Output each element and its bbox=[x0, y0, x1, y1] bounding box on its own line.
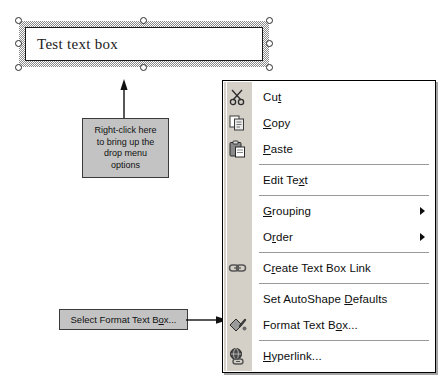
copy-icon bbox=[228, 114, 247, 132]
resize-handle-bottom-right[interactable] bbox=[266, 64, 273, 71]
chain-link-icon bbox=[228, 259, 247, 277]
callout-line-3: drop menu bbox=[104, 148, 147, 158]
menu-item-list: Cut Copy PasteEdit TextGroupingOrder Cre… bbox=[223, 81, 435, 372]
menu-separator bbox=[259, 283, 429, 284]
menu-item-hyperlink[interactable]: Hyperlink... bbox=[223, 343, 435, 369]
resize-handle-bottom-center[interactable] bbox=[140, 64, 147, 71]
callout-right-click: Right-click here to bring up the drop me… bbox=[82, 118, 169, 178]
resize-handle-top-left[interactable] bbox=[15, 17, 22, 24]
menu-item-label-order: Order bbox=[263, 231, 293, 243]
menu-item-copy[interactable]: Copy bbox=[223, 110, 435, 136]
callout-select-format-text-box: Select Format Text Box... bbox=[59, 309, 188, 330]
menu-item-grouping[interactable]: Grouping bbox=[223, 198, 435, 224]
globe-link-icon bbox=[228, 347, 247, 365]
menu-item-label-cut: Cut bbox=[263, 91, 281, 103]
menu-item-create-link[interactable]: Create Text Box Link bbox=[223, 255, 435, 281]
menu-separator bbox=[259, 252, 429, 253]
menu-separator bbox=[259, 195, 429, 196]
callout-select-format-text: Select Format Text Box... bbox=[71, 314, 177, 325]
callout-right-click-text: Right-click here to bring up the drop me… bbox=[91, 125, 159, 171]
resize-handle-middle-left[interactable] bbox=[15, 40, 22, 47]
text-box[interactable]: Test text box bbox=[25, 27, 263, 61]
menu-item-label-edit-text: Edit Text bbox=[263, 174, 308, 186]
menu-item-edit-text[interactable]: Edit Text bbox=[223, 167, 435, 193]
menu-item-order[interactable]: Order bbox=[223, 224, 435, 250]
callout-line-2: to bring up the bbox=[97, 137, 155, 147]
menu-item-paste[interactable]: Paste bbox=[223, 136, 435, 162]
text-box-content: Test text box bbox=[37, 36, 118, 53]
submenu-chevron-right-icon bbox=[420, 233, 425, 241]
annotation-arrow-up-icon bbox=[120, 79, 128, 119]
resize-handle-middle-right[interactable] bbox=[266, 40, 273, 47]
submenu-chevron-right-icon bbox=[420, 207, 425, 215]
menu-item-autoshape[interactable]: Set AutoShape Defaults bbox=[223, 286, 435, 312]
menu-item-label-create-link: Create Text Box Link bbox=[263, 262, 371, 274]
context-menu[interactable]: Cut Copy PasteEdit TextGroupingOrder Cre… bbox=[222, 80, 436, 373]
menu-item-label-grouping: Grouping bbox=[263, 205, 311, 217]
resize-handle-bottom-left[interactable] bbox=[15, 64, 22, 71]
callout-select-format-pre: Select Format Text B bbox=[71, 314, 159, 325]
clipboard-icon bbox=[228, 140, 247, 158]
menu-item-label-format-textbox: Format Text Box... bbox=[263, 319, 358, 331]
resize-handle-top-right[interactable] bbox=[266, 17, 273, 24]
menu-separator bbox=[259, 164, 429, 165]
menu-item-label-paste: Paste bbox=[263, 143, 293, 155]
menu-item-cut[interactable]: Cut bbox=[223, 84, 435, 110]
callout-line-1: Right-click here bbox=[94, 125, 156, 135]
scissors-icon bbox=[228, 88, 247, 106]
menu-item-label-copy: Copy bbox=[263, 117, 290, 129]
menu-item-format-textbox[interactable]: Format Text Box... bbox=[223, 312, 435, 338]
menu-item-label-autoshape: Set AutoShape Defaults bbox=[263, 293, 387, 305]
resize-handle-top-center[interactable] bbox=[140, 17, 147, 24]
paint-bucket-icon bbox=[228, 316, 247, 334]
callout-line-4: options bbox=[111, 160, 140, 170]
menu-separator bbox=[259, 340, 429, 341]
text-box-selection-frame[interactable]: Test text box bbox=[18, 20, 270, 68]
callout-select-format-post: x... bbox=[164, 314, 177, 325]
menu-item-label-hyperlink: Hyperlink... bbox=[263, 350, 322, 362]
